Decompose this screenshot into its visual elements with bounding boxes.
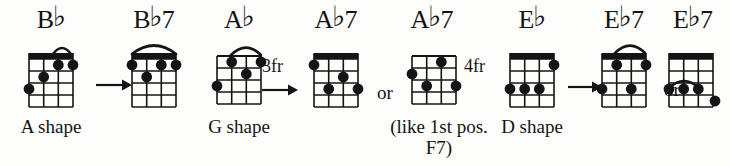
chord-name-eb7-a: E♭7: [588, 4, 660, 35]
finger-dot: [597, 84, 608, 95]
finger-dot: [226, 57, 237, 68]
flat-sign: ♭: [688, 1, 701, 32]
diagram-wrap-bb: [8, 44, 94, 110]
finger-dot: [664, 84, 675, 95]
shape-label-a: A shape: [8, 116, 94, 138]
finger-dot: [68, 60, 79, 71]
chord-diagram-ab7-a[interactable]: [308, 44, 364, 110]
diagram-wrap-ab7-a: [300, 44, 372, 110]
diagram-wrap-ab: [196, 44, 282, 110]
arrow-ab-to-ab7: [262, 83, 298, 97]
flat-sign: ♭: [53, 1, 66, 32]
barre-arc: [132, 46, 176, 55]
flat-sign: ♭: [332, 1, 345, 32]
diagram-wrap-bb7: [118, 44, 190, 110]
chord-diagram-bb[interactable]: [23, 44, 79, 110]
chord-diagram-bb7[interactable]: [126, 44, 182, 110]
chord-suffix: 7: [162, 5, 175, 34]
finger-dot: [323, 84, 334, 95]
nut-bar: [602, 53, 646, 59]
nut-bar: [29, 53, 73, 59]
chord-diagram-eb7-b[interactable]: [663, 44, 723, 110]
finger-dot: [519, 84, 530, 95]
chord-diagram-eb7-a[interactable]: [596, 44, 652, 110]
chord-group-ab: A♭: [196, 0, 486, 166]
chord-suffix: 7: [441, 5, 454, 34]
nut-bar: [510, 53, 554, 59]
finger-dot: [127, 60, 138, 71]
chord-group-eb: E♭: [492, 0, 730, 166]
finger-dot: [141, 72, 152, 83]
shape-label-g: G shape: [196, 116, 282, 138]
barre-arc: [615, 46, 645, 54]
fret-position-label-3fr: 3fr: [262, 57, 283, 75]
finger-dot: [212, 81, 223, 92]
chord-suffix: 7: [345, 5, 358, 34]
chord-group-bb: B♭: [0, 0, 190, 166]
chord-root: B: [37, 5, 54, 34]
chord-suffix: 7: [700, 5, 713, 34]
barre-arc: [231, 48, 261, 56]
finger-dot: [38, 72, 49, 83]
chord-root: E: [518, 5, 534, 34]
finger-dot: [611, 60, 622, 71]
chord-name-eb7-b: E♭7: [656, 4, 730, 35]
chord-name-eb: E♭: [492, 4, 572, 35]
flat-sign: ♭: [242, 1, 255, 32]
chord-root: B: [133, 5, 150, 34]
chord-root: A: [315, 5, 334, 34]
finger-dot: [710, 96, 721, 107]
finger-dot: [407, 69, 418, 80]
finger-dot: [534, 84, 545, 95]
chord-diagram-eb[interactable]: [504, 44, 560, 110]
finger-dot: [505, 84, 516, 95]
nut-bar: [669, 53, 713, 59]
nut-bar: [314, 53, 358, 59]
finger-dot: [549, 60, 560, 71]
finger-dot: [309, 60, 320, 71]
chord-name-ab7-a: A♭7: [300, 4, 372, 35]
chord-diagram-ab7-b[interactable]: [406, 44, 462, 110]
finger-dot: [24, 84, 35, 95]
chord-chart-page: B♭: [0, 0, 730, 166]
chord-name-bb7: B♭7: [118, 4, 190, 35]
finger-dot: [626, 84, 637, 95]
diagram-wrap-eb7-b: [656, 44, 730, 110]
finger-dot: [353, 84, 364, 95]
chord-suffix: 7: [631, 5, 644, 34]
finger-dot: [641, 60, 652, 71]
finger-dot: [338, 72, 349, 83]
finger-dot: [421, 81, 432, 92]
chord-root: A: [224, 5, 243, 34]
chord-root: A: [411, 5, 430, 34]
finger-dot: [451, 81, 462, 92]
chord-root: E: [604, 5, 620, 34]
diagram-wrap-eb7-a: [588, 44, 660, 110]
finger-dot: [171, 60, 182, 71]
finger-dot: [53, 60, 64, 71]
chord-name-ab7-b: A♭7: [396, 4, 468, 35]
finger-dot: [241, 69, 252, 80]
diagram-wrap-ab7-b: [406, 44, 490, 110]
chord-name-ab: A♭: [196, 4, 282, 35]
flat-sign: ♭: [533, 1, 546, 32]
diagram-wrap-eb: [492, 44, 572, 110]
or-label-ab: or: [377, 83, 393, 102]
flat-sign: ♭: [428, 1, 441, 32]
finger-dot: [436, 57, 447, 68]
fret-position-label-4fr: 4fr: [464, 57, 485, 75]
flat-sign: ♭: [150, 1, 163, 32]
finger-dot: [678, 84, 689, 95]
shape-label-d: D shape: [492, 116, 572, 138]
chord-diagram-ab[interactable]: [211, 44, 267, 110]
finger-dot: [156, 60, 167, 71]
flat-sign: ♭: [619, 1, 632, 32]
finger-dot: [693, 84, 704, 95]
chord-name-bb: B♭: [8, 4, 94, 35]
nut-bar: [132, 53, 176, 59]
chord-root: E: [673, 5, 689, 34]
